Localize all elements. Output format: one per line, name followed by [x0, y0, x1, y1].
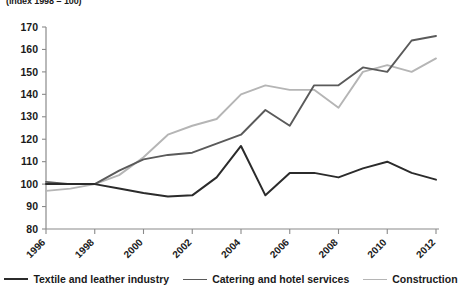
y-tick-label: 110 — [21, 155, 38, 167]
chart-container: (index 1998 = 100) 809010011012013014015… — [0, 0, 462, 291]
x-tick-label: 2010 — [365, 236, 389, 260]
legend-label: Construction — [392, 273, 457, 285]
y-tick-label: 140 — [20, 88, 38, 100]
x-tick-label: 2000 — [121, 236, 145, 260]
legend-item[interactable]: Construction — [363, 273, 457, 285]
legend-swatch-line-icon — [4, 278, 28, 280]
legend-label: Catering and hotel services — [212, 273, 349, 285]
y-tick-label: 90 — [26, 200, 38, 212]
x-tick-label: 2012 — [414, 236, 438, 260]
series-line-1 — [46, 146, 436, 197]
x-tick-label: 2002 — [170, 236, 194, 260]
x-axis: 199619982000200220042006200820102012 — [24, 229, 439, 260]
chart-legend: Textile and leather industryCatering and… — [0, 273, 462, 285]
legend-item[interactable]: Catering and hotel services — [183, 273, 349, 285]
series-line-2 — [46, 36, 436, 184]
x-tick-label: 2006 — [268, 236, 292, 260]
y-tick-label: 100 — [20, 178, 38, 190]
legend-item[interactable]: Textile and leather industry — [4, 273, 169, 285]
series-line-3 — [46, 58, 436, 190]
y-tick-label: 80 — [26, 223, 38, 235]
legend-label: Textile and leather industry — [33, 273, 169, 285]
x-tick-label: 1998 — [73, 236, 97, 260]
x-tick-label: 2008 — [316, 236, 340, 260]
y-tick-label: 130 — [20, 110, 38, 122]
x-tick-label: 2004 — [219, 236, 243, 260]
y-axis: 8090100110120130140150160170 — [20, 21, 46, 235]
legend-swatch-line-icon — [363, 279, 387, 280]
series-lines — [46, 36, 436, 196]
line-chart-plot: 8090100110120130140150160170 19961998200… — [0, 0, 462, 291]
legend-swatch-line-icon — [183, 279, 207, 280]
y-tick-label: 120 — [20, 133, 38, 145]
x-tick-label: 1996 — [24, 236, 48, 260]
y-tick-label: 150 — [20, 66, 38, 78]
y-tick-label: 160 — [20, 43, 38, 55]
y-tick-label: 170 — [20, 21, 38, 33]
